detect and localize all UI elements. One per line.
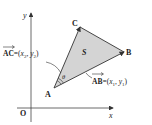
- vertex-A-label: A: [45, 90, 51, 99]
- vector-AB-label: AB=(x1, y1): [92, 73, 128, 87]
- origin-label: O: [20, 109, 26, 118]
- vector-AC-label: AC=(x2, y2): [3, 46, 39, 59]
- svg-text:AC=(x2, y2): AC=(x2, y2): [3, 49, 39, 59]
- triangle-area-diagram: y x O A B C S θ AC=(x2, y2) AB=(x1, y1): [0, 0, 152, 125]
- AC-leader-line: [46, 62, 61, 73]
- vertex-C-label: C: [72, 19, 78, 28]
- x-axis-label: x: [108, 111, 113, 120]
- AB-leader-line: [86, 73, 92, 78]
- svg-text:AB=(x1, y1): AB=(x1, y1): [92, 77, 128, 87]
- y-axis-label: y: [22, 11, 27, 20]
- area-S-label: S: [82, 48, 87, 57]
- vertex-B-label: B: [126, 48, 132, 57]
